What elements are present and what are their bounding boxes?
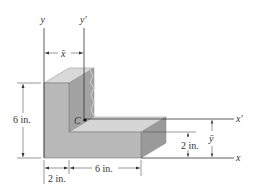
arrowhead-icon <box>211 154 213 158</box>
y-bar-label: ȳ <box>208 133 214 144</box>
height-label: 6 in. <box>13 114 31 125</box>
y-bar-dimension: ȳ <box>208 120 214 157</box>
y-prime-axis-label: y′ <box>79 14 87 25</box>
base-length-dimension: 6 in. <box>70 160 141 176</box>
arrowhead-icon <box>64 167 68 170</box>
leg-width-dimension: 2 in. <box>44 160 69 184</box>
x-axis-label: x <box>235 152 241 163</box>
composite-body-diagram: y y′ x x′ C x̄ 6 in. <box>0 0 256 192</box>
arrowhead-icon <box>187 133 189 137</box>
y-axis-label: y <box>40 14 46 25</box>
x-prime-axis-label: x′ <box>235 113 243 124</box>
arrowhead-icon <box>70 167 74 170</box>
centroid-dot <box>83 118 86 121</box>
arrowhead-icon <box>187 154 189 158</box>
arrowhead-icon <box>79 52 83 55</box>
l-shaped-solid <box>44 68 166 158</box>
arrowhead-icon <box>22 84 25 88</box>
leg-width-label: 2 in. <box>48 173 66 184</box>
arrowhead-icon <box>45 167 49 170</box>
base-length-label: 6 in. <box>95 163 113 174</box>
x-bar-dimension: x̄ <box>45 48 83 59</box>
centroid-label: C <box>74 115 81 126</box>
x-bar-label: x̄ <box>60 48 66 59</box>
arrowhead-icon <box>22 153 25 157</box>
arrowhead-icon <box>211 120 213 124</box>
base-thickness-label: 2 in. <box>181 140 199 151</box>
arrowhead-icon <box>45 52 49 55</box>
height-dimension: 6 in. <box>13 83 41 158</box>
arrowhead-icon <box>136 167 140 170</box>
